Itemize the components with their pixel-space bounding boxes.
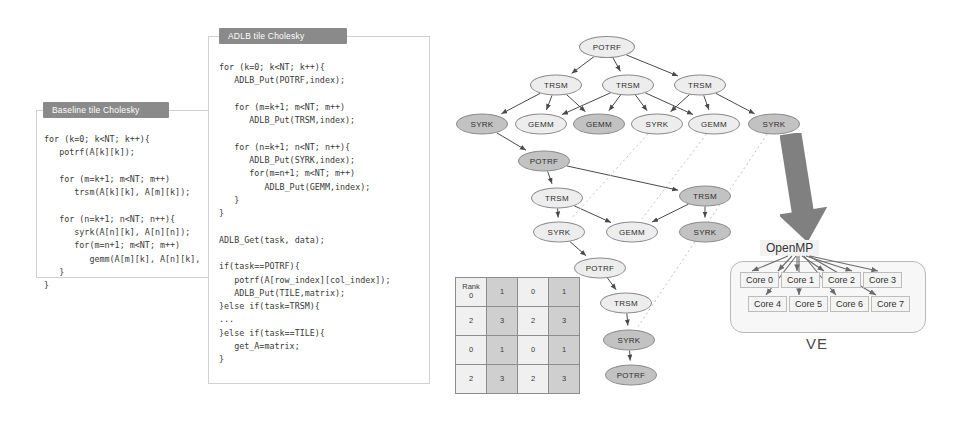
dag-edge bbox=[645, 93, 693, 115]
baseline-code-panel: Baseline tile Cholesky for (k=0; k<NT; k… bbox=[36, 110, 212, 278]
dag-edge bbox=[546, 95, 552, 110]
matrix-cell: 3 bbox=[549, 365, 580, 394]
dag-edge bbox=[567, 166, 678, 190]
matrix-cell: 1 bbox=[549, 278, 580, 307]
matrix-cell: 3 bbox=[549, 307, 580, 336]
flow-arrow-icon bbox=[780, 133, 850, 248]
dag-edge bbox=[627, 313, 628, 325]
dag-edge bbox=[548, 171, 552, 183]
matrix-row: 2323 bbox=[456, 365, 580, 394]
dag-edge bbox=[704, 95, 709, 109]
dag-edge bbox=[497, 133, 526, 151]
dag-edge bbox=[570, 242, 586, 256]
dag-node-potrf: POTRF bbox=[518, 151, 570, 172]
dag-node-label: SYRK bbox=[471, 120, 494, 129]
baseline-code-title: Baseline tile Cholesky bbox=[43, 102, 169, 118]
matrix-cell: 1 bbox=[549, 336, 580, 365]
adlb-code-body: for (k=0; k<NT; k++){ ADLB_Put(POTRF,ind… bbox=[219, 61, 390, 366]
dag-edge bbox=[501, 93, 540, 113]
dag-node-syrk: SYRK bbox=[603, 330, 655, 351]
dag-node-label: GEMM bbox=[528, 120, 554, 129]
dag-node-potrf: POTRF bbox=[574, 258, 626, 279]
adlb-code-title: ADLB tile Cholesky bbox=[219, 28, 347, 44]
dag-node-label: SYRK bbox=[646, 120, 669, 129]
matrix-cell: 0 bbox=[456, 336, 487, 365]
core-box-1: Core 1 bbox=[781, 272, 820, 288]
dag-node-syrk: SYRK bbox=[456, 114, 508, 135]
core-box-3: Core 3 bbox=[863, 272, 902, 288]
ve-label: VE bbox=[806, 335, 828, 352]
dag-edge-dotted bbox=[571, 134, 648, 219]
dag-edge bbox=[716, 93, 755, 113]
dag-node-syrk: SYRK bbox=[748, 114, 800, 135]
dag-node-label: POTRF bbox=[586, 264, 615, 273]
dag-edge bbox=[607, 278, 616, 290]
dag-node-potrf: POTRF bbox=[579, 36, 635, 58]
matrix-cell: 2 bbox=[518, 365, 549, 394]
dag-node-label: SYRK bbox=[548, 228, 571, 237]
dag-edge bbox=[613, 58, 620, 72]
dag-node-label: GEMM bbox=[619, 228, 645, 237]
dag-node-label: TRSM bbox=[545, 194, 569, 203]
core-box-2: Core 2 bbox=[822, 272, 861, 288]
core-row-bottom: Core 4Core 5Core 6Core 7 bbox=[748, 296, 912, 312]
ve-group: OpenMP Core 0Core 1Core 2Core 3 bbox=[700, 240, 946, 370]
rank-distribution-matrix: Rank0101232301012323 bbox=[455, 277, 580, 394]
core-box-2: Core 6 bbox=[830, 296, 869, 312]
dag-node-label: TRSM bbox=[693, 192, 717, 201]
openmp-label: OpenMP bbox=[760, 240, 819, 256]
dag-edge bbox=[630, 350, 631, 360]
dag-node-label: TRSM bbox=[544, 81, 568, 90]
dag-node-gemm: GEMM bbox=[515, 114, 567, 135]
adlb-code-panel: ADLB tile Cholesky for (k=0; k<NT; k++){… bbox=[208, 36, 430, 384]
dag-edge bbox=[562, 93, 611, 115]
matrix-row: 0101 bbox=[456, 336, 580, 365]
dag-node-label: TRSM bbox=[616, 81, 640, 90]
dag-edge bbox=[635, 95, 647, 111]
dag-node-trsm: TRSM bbox=[674, 75, 726, 96]
core-row-top: Core 0Core 1Core 2Core 3 bbox=[740, 272, 904, 288]
matrix-cell: 1 bbox=[487, 278, 518, 307]
matrix-row: Rank0101 bbox=[456, 278, 580, 307]
matrix-cell: Rank0 bbox=[456, 278, 487, 307]
dag-node-syrk: SYRK bbox=[631, 114, 683, 135]
core-box-0: Core 4 bbox=[748, 296, 787, 312]
matrix-cell: 3 bbox=[487, 307, 518, 336]
matrix-cell: 1 bbox=[487, 336, 518, 365]
matrix-cell: 0 bbox=[518, 278, 549, 307]
dag-edge bbox=[558, 208, 559, 217]
dag-node-label: POTRF bbox=[530, 157, 559, 166]
matrix-row: 2323 bbox=[456, 307, 580, 336]
matrix-cell: 0 bbox=[518, 336, 549, 365]
dag-edge bbox=[609, 95, 621, 111]
core-box-1: Core 5 bbox=[789, 296, 828, 312]
dag-node-label: POTRF bbox=[593, 43, 622, 52]
dag-node-gemm: GEMM bbox=[573, 114, 625, 135]
dag-edge bbox=[567, 95, 586, 112]
dag-edge bbox=[626, 55, 678, 76]
dag-node-syrk: SYRK bbox=[533, 222, 585, 243]
dag-node-label: SYRK bbox=[763, 120, 786, 129]
dag-node-trsm: TRSM bbox=[600, 293, 652, 314]
baseline-code-body: for (k=0; k<NT; k++){ potrf(A[k][k]); fo… bbox=[44, 133, 200, 292]
matrix-cell: 3 bbox=[487, 365, 518, 394]
dag-node-label: GEMM bbox=[701, 120, 727, 129]
dag-edge bbox=[671, 95, 690, 112]
dag-node-label: SYRK bbox=[618, 336, 641, 345]
dag-edge bbox=[652, 204, 688, 222]
dag-node-gemm: GEMM bbox=[606, 222, 658, 243]
dag-node-label: TRSM bbox=[688, 81, 712, 90]
dag-node-label: SYRK bbox=[694, 228, 717, 237]
dag-node-gemm: GEMM bbox=[688, 114, 740, 135]
dag-node-trsm: TRSM bbox=[530, 75, 582, 96]
core-box-3: Core 7 bbox=[871, 296, 910, 312]
matrix-cell: 2 bbox=[518, 307, 549, 336]
dag-node-trsm: TRSM bbox=[531, 188, 583, 209]
diagram-canvas: Baseline tile Cholesky for (k=0; k<NT; k… bbox=[0, 0, 955, 421]
dag-node-trsm: TRSM bbox=[602, 75, 654, 96]
matrix-cell-value: 0 bbox=[469, 291, 473, 300]
dag-node-trsm: TRSM bbox=[679, 186, 731, 207]
dag-node-label: POTRF bbox=[617, 371, 646, 380]
dag-edge bbox=[572, 57, 594, 74]
dag-node-label: TRSM bbox=[614, 299, 638, 308]
